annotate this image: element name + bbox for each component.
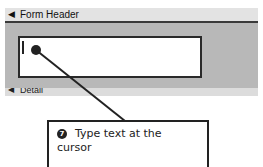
step-number-badge: 7 bbox=[57, 129, 67, 139]
callout-box: 7Type text at the cursor bbox=[47, 120, 209, 167]
callout-text: Type text at the cursor bbox=[57, 127, 162, 154]
